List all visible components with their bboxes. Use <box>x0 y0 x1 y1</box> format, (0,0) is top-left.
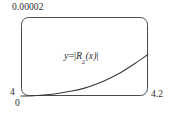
figure-container: 0.00002 4 0 4.2 y=|R2(x)| <box>0 0 173 117</box>
y-origin-label: 4 <box>10 88 15 98</box>
abs-bar-close: | <box>97 50 99 61</box>
equation-subscript: 2 <box>82 58 85 65</box>
y-max-label: 0.00002 <box>12 3 44 13</box>
curve-equation-label: y=|R2(x)| <box>64 50 99 63</box>
x-max-label: 4.2 <box>151 90 163 100</box>
equation-arg: (x) <box>85 50 96 61</box>
x-origin-label: 0 <box>15 99 20 109</box>
